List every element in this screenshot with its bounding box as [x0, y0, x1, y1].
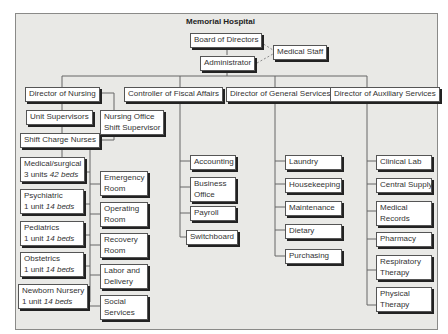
aux-physical-therapy: PhysicalTherapy — [376, 287, 432, 312]
service-emergency-room: EmergencyRoom — [100, 171, 148, 196]
unit-pediatrics: Pediatrics1 unit 14 beds — [20, 221, 84, 246]
general-dietary: Dietary — [285, 224, 342, 239]
unit-supervisors-box: Unit Supervisors — [26, 110, 93, 125]
director-auxiliary-box: Director of Auxiliary Services — [330, 87, 440, 102]
nursing-office-box: Nursing OfficeShift Supervisor — [100, 110, 164, 135]
board-of-directors-box: Board of Directors — [190, 33, 262, 48]
fiscal-payroll: Payroll — [190, 206, 236, 221]
service-labor-delivery: Labor andDelivery — [100, 264, 148, 289]
unit-obstetrics: Obstetrics1 unit 14 beds — [20, 252, 84, 277]
general-housekeeping: Housekeeping — [285, 178, 342, 193]
chart-title: Memorial Hospital — [186, 17, 255, 26]
unit-newborn-nursery: Newborn Nursery1 unit 14 beds — [18, 284, 88, 309]
aux-pharmacy: Pharmacy — [376, 232, 432, 247]
director-nursing-box: Director of Nursing — [25, 87, 100, 102]
service-social-services: SocialServices — [100, 295, 148, 320]
general-laundry: Laundry — [285, 155, 342, 170]
director-general-box: Director of General Services — [226, 87, 334, 102]
controller-fiscal-box: Controller of Fiscal Affairs — [124, 87, 223, 102]
aux-respiratory-therapy: RespiratoryTherapy — [376, 255, 432, 280]
aux-medical-records: MedicalRecords — [376, 201, 432, 226]
service-operating-room: OperatingRoom — [100, 202, 148, 227]
unit-psychiatric: Psychiatric1 unit 14 beds — [20, 189, 84, 214]
general-purchasing: Purchasing — [285, 249, 342, 264]
service-recovery-room: RecoveryRoom — [100, 233, 148, 258]
aux-central-supply: Central Supply — [376, 178, 432, 193]
fiscal-accounting: Accounting — [190, 155, 236, 170]
unit-medical-surgical: Medical/surgical3 units 42 beds — [20, 157, 85, 182]
general-maintenance: Maintenance — [285, 201, 342, 216]
medical-staff-box: Medical Staff — [273, 45, 327, 60]
fiscal-business-office: BusinessOffice — [190, 177, 236, 202]
administrator-box: Administrator — [200, 56, 255, 71]
fiscal-switchboard: Switchboard — [186, 230, 238, 245]
aux-clinical-lab: Clinical Lab — [376, 155, 432, 170]
shift-charge-nurses-box: Shift Charge Nurses — [20, 133, 100, 148]
